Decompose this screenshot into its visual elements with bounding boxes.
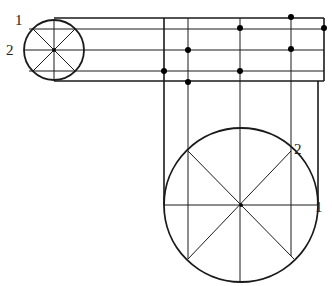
intersection-dot	[321, 25, 327, 31]
intersection-dot	[185, 79, 191, 85]
large-circle-label-1: 1	[315, 199, 323, 215]
intersection-dot	[288, 14, 294, 20]
intersection-dot	[237, 25, 243, 31]
small-circle-label-1: 1	[15, 12, 23, 28]
large-circle-label-2: 2	[294, 141, 302, 157]
horizontal-projection-lines	[24, 18, 324, 81]
intersection-dot	[185, 47, 191, 53]
projection-diagram: 1 2 2 1	[0, 0, 332, 286]
intersection-dot	[161, 68, 167, 74]
intersection-dot	[237, 68, 243, 74]
small-circle-label-2: 2	[6, 42, 14, 58]
intersection-dot	[288, 46, 294, 52]
small-circle-center	[53, 49, 56, 52]
large-circle-center	[240, 204, 243, 207]
